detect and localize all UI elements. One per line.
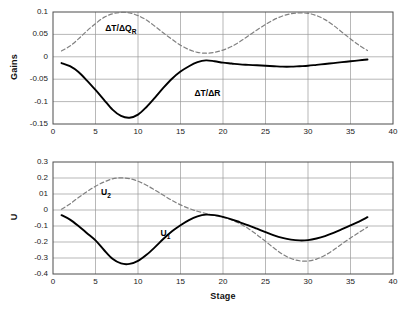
x-tick-label: 40 [379, 277, 407, 286]
y-tick-label: -0.3 [0, 253, 48, 262]
x-tick-label: 30 [294, 277, 322, 286]
x-tick-label: 25 [252, 277, 280, 286]
chart-panel-u: U 0.30.2010-0.1-0.2-0.3-0.4 051015202530… [0, 152, 413, 311]
y-tick-label: 0 [0, 205, 48, 214]
y-tick-label: -0.2 [0, 237, 48, 246]
x-tick-label: 15 [167, 277, 195, 286]
x-axis-title-stage: Stage [193, 291, 253, 301]
x-tick-label: 35 [337, 127, 365, 136]
curve-label: ΔT/ΔR [195, 88, 221, 98]
x-tick-label: 30 [294, 127, 322, 136]
x-tick-label: 35 [337, 277, 365, 286]
y-tick-label: 0.3 [0, 157, 48, 166]
x-tick-label: 25 [252, 127, 280, 136]
x-tick-label: 5 [82, 127, 110, 136]
x-tick-label: 0 [39, 127, 67, 136]
x-tick-label: 20 [209, 277, 237, 286]
x-tick-label: 40 [379, 127, 407, 136]
y-tick-label: -0.1 [0, 97, 48, 106]
y-axis-title-gains: Gains [9, 11, 19, 123]
y-tick-label: 0.05 [0, 29, 48, 38]
y-tick-label: 0.2 [0, 173, 48, 182]
x-tick-label: 15 [167, 127, 195, 136]
y-tick-label: -0.1 [0, 221, 48, 230]
y-tick-label: -0.05 [0, 74, 48, 83]
figure-container: Gains 0.10.050-0.05-0.1-0.15 05101520253… [0, 0, 413, 311]
x-tick-label: 10 [124, 277, 152, 286]
y-tick-label: 0 [0, 52, 48, 61]
x-tick-label: 5 [82, 277, 110, 286]
curve-label: U1 [161, 228, 171, 240]
x-tick-label: 0 [39, 277, 67, 286]
curve-label: ΔT/ΔQR [105, 23, 136, 35]
y-tick-label: 0.1 [0, 7, 48, 16]
x-tick-label: 10 [124, 127, 152, 136]
chart-panel-gains: Gains 0.10.050-0.05-0.1-0.15 05101520253… [0, 0, 413, 152]
curve-label: U2 [101, 187, 111, 199]
plot-area-u [0, 152, 413, 311]
x-tick-label: 20 [209, 127, 237, 136]
y-tick-label: 01 [0, 189, 48, 198]
